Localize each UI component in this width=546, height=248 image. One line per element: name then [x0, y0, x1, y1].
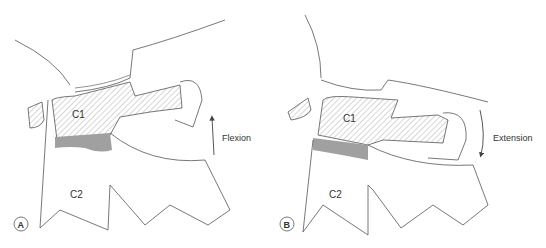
- c1-label: C1: [343, 113, 356, 124]
- motion-label: Flexion: [222, 133, 251, 143]
- c2-label: C2: [329, 189, 342, 200]
- panel-b-extension: C1 C2 Extension B: [280, 15, 533, 235]
- c1-label: C1: [72, 109, 85, 120]
- svg-text:A: A: [18, 220, 25, 230]
- c2-label: C2: [70, 189, 83, 200]
- svg-text:B: B: [284, 220, 291, 230]
- flexion-arrow-icon: [212, 118, 214, 155]
- panel-a-flexion: C1 C2 Flexion A: [14, 20, 251, 231]
- motion-label: Extension: [493, 133, 533, 143]
- cervical-spine-diagram: C1 C2 Flexion A C1 C2 Extension B: [0, 0, 546, 248]
- extension-arrow-icon: [480, 110, 483, 155]
